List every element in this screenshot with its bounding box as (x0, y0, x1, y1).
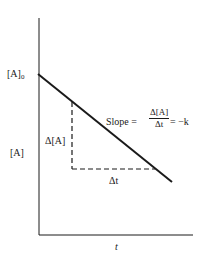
x-axis-label: t (115, 242, 118, 252)
intercept-label-base: [A] (7, 68, 21, 79)
delta-t-label: Δt (109, 176, 118, 186)
slope-numerator: Δ[A] (149, 108, 169, 119)
slope-fraction: Δ[A] Δt (149, 108, 169, 129)
diagram-canvas (0, 0, 205, 258)
delta-t-text: Δt (109, 175, 118, 186)
intercept-label-sub: 0 (21, 73, 25, 81)
y-axis-label: [A] (10, 148, 24, 158)
slope-suffix: = −k (170, 117, 189, 127)
delta-a-label: Δ[A] (45, 136, 65, 146)
slope-denominator: Δt (155, 119, 163, 129)
slope-prefix: Slope = (106, 117, 137, 127)
intercept-label: [A]0 (7, 69, 24, 81)
